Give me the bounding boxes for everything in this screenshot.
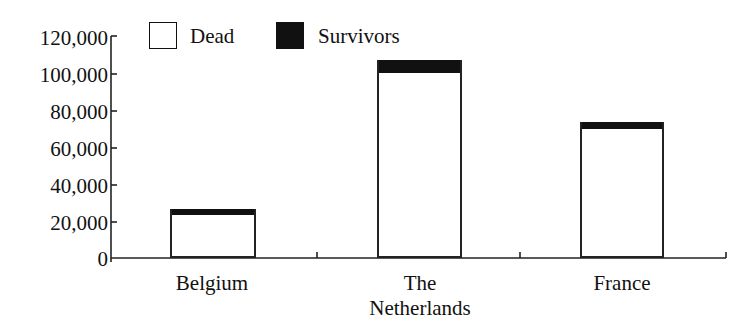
stacked-bar-chart: 120,000 100,000 80,000 60,000 40,000 20,… bbox=[0, 0, 751, 334]
legend-survivors-swatch bbox=[276, 22, 304, 49]
bar-netherlands-dead bbox=[377, 73, 462, 258]
bar-france-survivors bbox=[580, 122, 664, 129]
bar-netherlands-survivors bbox=[377, 60, 462, 73]
xlabel-france: France bbox=[522, 272, 722, 295]
legend-dead-swatch bbox=[149, 22, 177, 49]
legend-dead-label: Dead bbox=[190, 24, 234, 48]
xlabel-netherlands-line2: Netherlands bbox=[320, 297, 520, 320]
legend-survivors-label: Survivors bbox=[318, 24, 400, 48]
bar-belgium-dead bbox=[170, 215, 256, 258]
xlabel-netherlands-line1: The bbox=[320, 272, 520, 295]
xlabel-belgium: Belgium bbox=[112, 272, 312, 295]
bar-france-dead bbox=[580, 129, 664, 258]
